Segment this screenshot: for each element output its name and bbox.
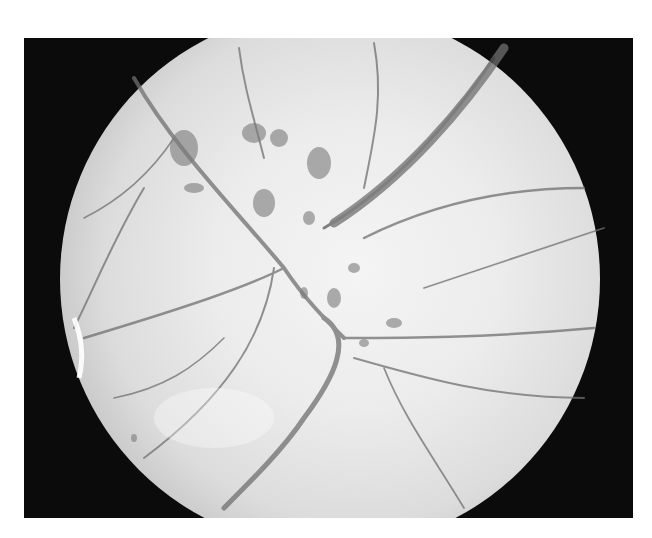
retinal-vessels <box>24 38 633 518</box>
fundus-image-frame <box>24 38 633 518</box>
